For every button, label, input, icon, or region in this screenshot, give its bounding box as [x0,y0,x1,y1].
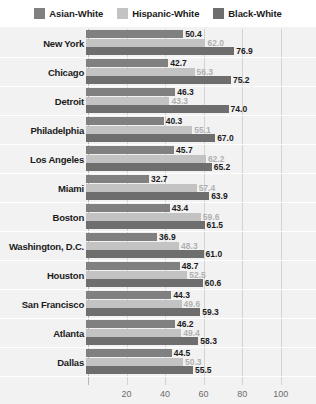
category-label: Houston [0,270,86,281]
category-label: Detroit [0,96,86,107]
bar-row: Atlanta46.249.458.3 [0,319,316,348]
legend-swatch-icon [117,8,128,19]
bar-value-label: 63.9 [211,191,228,201]
bar-hispanic-white [86,300,182,308]
bar-value-label: 49.4 [183,328,200,338]
bar-track: 59.3 [86,308,316,316]
bar-track: 65.2 [86,163,316,171]
bar-hispanic-white [86,242,179,250]
legend-label: Black-White [228,8,281,19]
bar-track: 43.4 [86,204,316,212]
bar-group: 44.550.355.5 [86,349,316,376]
bar-track: 61.5 [86,221,316,229]
bar-track: 57.4 [86,184,316,192]
bar-value-label: 76.9 [236,46,253,56]
bar-value-label: 43.3 [171,96,188,106]
bar-asian-white [86,30,183,38]
bar-black-white [86,76,231,84]
bar-track: 63.9 [86,192,316,200]
legend-item: Hispanic-White [117,8,199,19]
bar-track: 55.5 [86,366,316,374]
bar-asian-white [86,88,175,96]
bar-track: 44.3 [86,291,316,299]
bar-hispanic-white [86,213,201,221]
bar-track: 60.6 [86,279,316,287]
x-tick-label: 40 [160,389,170,399]
bar-track: 56.3 [86,68,316,76]
bar-row: Boston43.459.661.5 [0,203,316,232]
bar-asian-white [86,204,170,212]
bar-value-label: 59.3 [202,307,219,317]
bar-value-label: 55.5 [195,365,212,375]
bar-row: Dallas44.550.355.5 [0,348,316,377]
bar-hispanic-white [86,155,206,163]
bar-asian-white [86,59,168,67]
bar-value-label: 62.0 [207,38,224,48]
bar-hispanic-white [86,39,205,47]
category-label: Miami [0,183,86,194]
bar-value-label: 55.1 [194,125,211,135]
bar-asian-white [86,262,180,270]
bar-asian-white [86,175,149,183]
category-label: New York [0,38,86,49]
bar-black-white [86,105,229,113]
bar-asian-white [86,320,175,328]
x-tick-label: 100 [273,389,288,399]
bar-track: 61.0 [86,250,316,258]
bar-black-white [86,192,209,200]
bar-hispanic-white [86,97,169,105]
category-label: Dallas [0,357,86,368]
x-tick-label: 80 [237,389,247,399]
bar-value-label: 60.6 [205,278,222,288]
bar-value-label: 56.3 [197,67,214,77]
bar-track: 36.9 [86,233,316,241]
chart-legend: Asian-WhiteHispanic-WhiteBlack-White [0,0,316,27]
bar-group: 40.355.167.0 [86,117,316,144]
bar-black-white [86,163,212,171]
bar-track: 59.6 [86,213,316,221]
bar-group: 48.752.560.6 [86,262,316,289]
bar-row: Washington, D.C.36.948.361.0 [0,232,316,261]
bar-group: 36.948.361.0 [86,233,316,260]
bar-row: Detroit46.343.374.0 [0,87,316,116]
bar-asian-white [86,146,174,154]
bar-row: Los Angeles45.762.265.2 [0,145,316,174]
bar-track: 62.2 [86,155,316,163]
bar-track: 48.3 [86,242,316,250]
plot-panel: New York50.462.076.9Chicago42.756.375.2D… [0,27,316,404]
bar-hispanic-white [86,329,181,337]
bar-value-label: 36.9 [159,232,176,242]
bar-asian-white [86,117,164,125]
legend-swatch-icon [34,8,45,19]
bar-value-label: 42.7 [170,58,187,68]
bar-group: 43.459.661.5 [86,204,316,231]
bar-value-label: 61.5 [207,220,224,230]
bar-black-white [86,250,204,258]
bar-row: Miami32.757.463.9 [0,174,316,203]
bar-value-label: 40.3 [166,116,183,126]
bar-black-white [86,221,205,229]
bar-track: 50.4 [86,30,316,38]
bar-hispanic-white [86,184,197,192]
bar-rows: New York50.462.076.9Chicago42.756.375.2D… [0,29,316,377]
x-tick-label: 20 [122,389,132,399]
bar-track: 76.9 [86,47,316,55]
category-label: Chicago [0,67,86,78]
bar-track: 74.0 [86,105,316,113]
bar-black-white [86,47,234,55]
category-label: San Francisco [0,299,86,310]
bar-value-label: 52.5 [189,270,206,280]
bar-black-white [86,279,203,287]
bar-track: 46.2 [86,320,316,328]
bar-row: San Francisco44.349.659.3 [0,290,316,319]
bar-hispanic-white [86,271,187,279]
bar-asian-white [86,233,157,241]
category-label: Los Angeles [0,154,86,165]
bar-value-label: 67.0 [217,133,234,143]
category-label: Philadelphia [0,125,86,136]
legend-label: Hispanic-White [132,8,199,19]
bar-track: 58.3 [86,337,316,345]
bar-asian-white [86,349,172,357]
bar-row: Chicago42.756.375.2 [0,58,316,87]
bar-black-white [86,337,198,345]
